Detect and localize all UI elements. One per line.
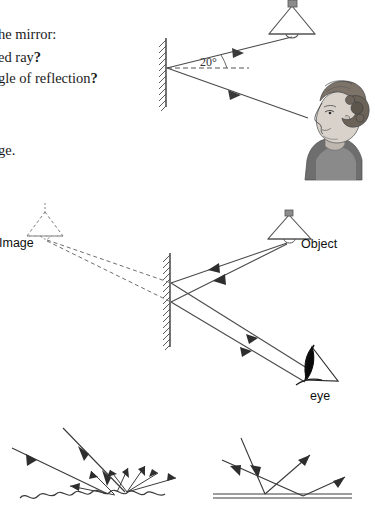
diagram-4-specular-reflection xyxy=(0,0,375,511)
specular-reflected-ray-2-arrow xyxy=(333,477,345,488)
specular-incident-ray-2 xyxy=(222,460,303,496)
specular-incident-ray-2-arrow xyxy=(230,465,241,476)
worksheet-page: he mirror: ed ray? gle of reflection? ge… xyxy=(0,0,375,511)
smooth-surface xyxy=(213,494,352,498)
